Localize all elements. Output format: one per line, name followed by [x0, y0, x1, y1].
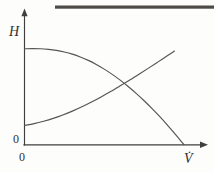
x-axis-label: V̇ [184, 152, 193, 166]
x-axis-origin-label: 0 [19, 151, 25, 163]
page-scan-rule [55, 6, 214, 9]
pump-system-curve-figure: H V̇ 0 0 [0, 0, 214, 172]
pump-characteristic-curve [25, 49, 185, 145]
system-resistance-curve [25, 51, 175, 125]
y-axis-label: H [9, 25, 19, 39]
chart-canvas [0, 0, 214, 172]
y-axis-arrowhead [21, 9, 27, 17]
x-axis-arrowhead [200, 142, 208, 148]
y-axis-origin-label: 0 [13, 133, 19, 145]
